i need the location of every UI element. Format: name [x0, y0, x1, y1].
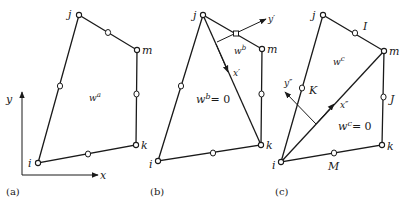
x-prime-arrow-icon — [216, 44, 228, 72]
node-j-label: j — [190, 9, 197, 22]
midside-node-marker-square — [234, 31, 239, 36]
midside-label-I: I — [362, 20, 368, 33]
panel-a: y x i j m k wa (a) — [5, 8, 152, 197]
node-i-label: i — [28, 157, 32, 170]
midside-node-marker — [134, 91, 139, 97]
node-k — [133, 142, 138, 147]
node-i — [35, 160, 40, 165]
node-k-label: k — [387, 140, 394, 153]
node-j-label: j — [309, 9, 316, 22]
midside-node-J — [381, 94, 386, 100]
y-prime-arrow-icon — [217, 19, 266, 42]
x-double-prime-arrow-icon — [316, 104, 334, 124]
midside-node-I — [352, 30, 357, 36]
x-axis-label: x — [100, 169, 107, 182]
quad-element-outline — [38, 15, 137, 163]
midside-label-J: J — [388, 93, 395, 106]
node-m — [259, 46, 264, 51]
midside-node-marker — [57, 83, 62, 89]
y-double-prime-label: y″ — [283, 78, 293, 88]
node-i — [155, 158, 160, 163]
node-j — [76, 12, 81, 17]
midside-node-marker — [105, 30, 110, 36]
node-m-label: m — [267, 43, 277, 56]
node-m — [381, 48, 386, 53]
midside-label-K: K — [308, 84, 318, 97]
caption-a: (a) — [6, 186, 20, 197]
midside-node-K — [299, 85, 304, 91]
region-label-wb-zero: wb= 0 — [196, 92, 230, 106]
y-axis-label: y — [5, 93, 13, 106]
node-k — [379, 142, 384, 147]
panel-c: y″ x″ I J K M i j m k wc wc= 0 (c) — [272, 9, 399, 197]
x-prime-label: x′ — [233, 68, 240, 78]
node-m — [134, 47, 139, 52]
node-j — [320, 12, 325, 17]
region-label-wb-upper: wb — [234, 44, 247, 56]
global-axes: y x — [5, 92, 107, 182]
midside-label-M: M — [327, 160, 340, 173]
y-prime-label: y′ — [267, 14, 275, 24]
node-j — [200, 12, 205, 17]
finite-element-figure: y x i j m k wa (a) y′ x′ — [0, 0, 406, 206]
region-label-wa: wa — [89, 91, 101, 103]
quad-element-outline — [281, 15, 384, 162]
midside-node-marker — [85, 151, 90, 157]
caption-c: (c) — [275, 186, 289, 197]
quad-element-outline — [158, 15, 262, 161]
midside-node-marker — [259, 91, 264, 97]
node-m-label: m — [389, 45, 399, 58]
midside-node-marker — [178, 83, 183, 89]
node-i-label: i — [149, 158, 153, 171]
node-j-label: j — [65, 8, 72, 21]
region-label-wc-zero: wc= 0 — [338, 119, 372, 133]
panel-b: y′ x′ i j m k wb wb= 0 (b) — [149, 9, 277, 197]
node-m-label: m — [142, 44, 152, 57]
node-k — [258, 142, 263, 147]
node-i — [278, 159, 283, 164]
x-double-prime-label: x″ — [340, 100, 349, 110]
region-label-wc-upper: wc — [333, 55, 345, 67]
caption-b: (b) — [150, 186, 164, 197]
node-i-label: i — [272, 159, 276, 172]
node-k-label: k — [141, 139, 148, 152]
midside-node-marker — [210, 150, 215, 156]
midside-node-M — [331, 150, 336, 156]
node-k-label: k — [266, 139, 273, 152]
